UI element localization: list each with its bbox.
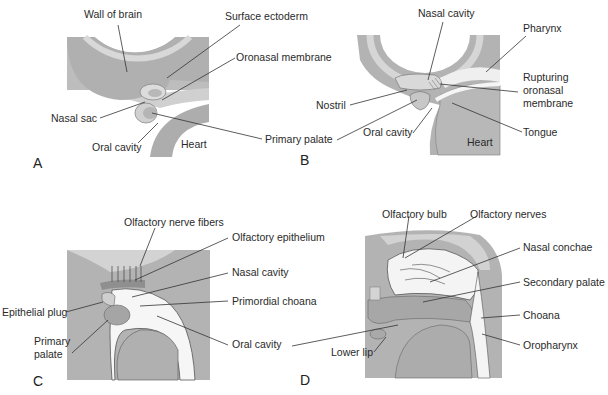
label-rupturing-oronasal-membrane: Rupturing oronasal membrane — [523, 71, 573, 110]
label-olfactory-nerve-fibers: Olfactory nerve fibers — [124, 216, 224, 229]
label-nasal-cavity-b: Nasal cavity — [418, 7, 475, 20]
label-surface-ectoderm: Surface ectoderm — [225, 10, 308, 23]
label-olfactory-nerves: Olfactory nerves — [470, 208, 546, 221]
panel-c-illustration — [67, 250, 210, 380]
label-oropharynx: Oropharynx — [523, 339, 578, 352]
label-olfactory-epithelium: Olfactory epithelium — [232, 231, 325, 244]
label-nasal-conchae: Nasal conchae — [523, 241, 592, 254]
label-heart-b: Heart — [467, 136, 493, 149]
label-primordial-choana: Primordial choana — [232, 295, 317, 308]
label-oronasal-membrane: Oronasal membrane — [236, 51, 332, 64]
panel-d-illustration — [365, 230, 502, 378]
label-primary-palate-a: Primary palate — [265, 133, 333, 146]
panel-letter-c: C — [33, 373, 43, 389]
label-lower-lip: Lower lip — [331, 346, 373, 359]
label-wall-of-brain: Wall of brain — [84, 8, 142, 21]
panel-letter-b: B — [300, 152, 309, 168]
label-oral-cavity-a: Oral cavity — [92, 141, 142, 154]
label-oral-cavity-b: Oral cavity — [363, 126, 413, 139]
label-nostril: Nostril — [316, 99, 346, 112]
label-secondary-palate: Secondary palate — [523, 276, 605, 289]
label-heart-a: Heart — [181, 138, 207, 151]
label-nasal-cavity-c: Nasal cavity — [232, 266, 289, 279]
label-nasal-sac: Nasal sac — [51, 112, 97, 125]
label-tongue: Tongue — [523, 126, 557, 139]
panel-letter-d: D — [300, 372, 310, 388]
label-oral-cavity-c: Oral cavity — [232, 338, 282, 351]
label-choana: Choana — [523, 309, 560, 322]
label-olfactory-bulb: Olfactory bulb — [382, 208, 447, 221]
label-epithelial-plug: Epithelial plug — [2, 306, 67, 319]
label-primary-palate-c: Primary palate — [34, 335, 70, 361]
panel-letter-a: A — [33, 155, 42, 171]
label-pharynx: Pharynx — [523, 22, 562, 35]
